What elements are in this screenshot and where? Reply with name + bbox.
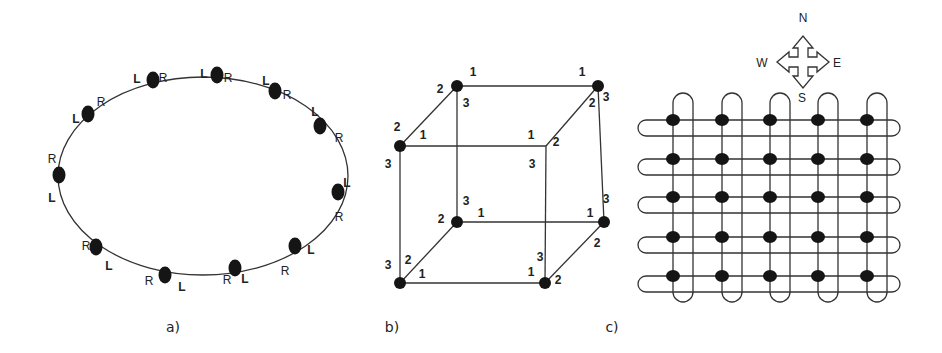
torus-node: [763, 114, 777, 126]
torus-node: [811, 231, 825, 243]
cube-vertex-back-bottom-left: [451, 216, 463, 228]
torus-node: [811, 191, 825, 203]
port-number-label: 1: [420, 128, 427, 142]
left-port-label: L: [48, 191, 55, 205]
left-port-label: L: [343, 176, 350, 190]
left-port-label: L: [133, 72, 140, 86]
ring-node: [90, 239, 103, 256]
ring-node: [269, 83, 282, 100]
right-port-label: R: [283, 88, 292, 102]
torus-node: [811, 153, 825, 165]
right-port-label: R: [281, 264, 290, 278]
compass-west-label: W: [756, 56, 768, 70]
network-topologies-figure: LRLRLRLRLRLRLRLRLRLRLR 12312321312331213…: [0, 0, 942, 353]
port-number-label: 1: [579, 65, 586, 79]
torus-node: [715, 114, 729, 126]
port-number-label: 1: [478, 206, 485, 220]
port-number-label: 2: [589, 96, 596, 110]
torus-node: [763, 270, 777, 282]
caption-a: a): [166, 319, 180, 335]
left-port-label: L: [241, 272, 248, 286]
port-number-label: 3: [463, 194, 470, 208]
port-number-label: 1: [470, 65, 477, 79]
ring-node: [82, 106, 95, 123]
port-number-label: 3: [385, 157, 392, 171]
torus-node: [811, 270, 825, 282]
cube-vertex-back-bottom-right: [598, 216, 610, 228]
torus-node: [715, 191, 729, 203]
compass-south-label: S: [798, 91, 806, 105]
torus-node: [666, 191, 680, 203]
port-number-label: 3: [385, 258, 392, 272]
cube-vertex-back-top-left: [451, 80, 463, 92]
right-port-label: R: [224, 71, 233, 85]
port-number-label: 2: [394, 120, 401, 134]
right-port-label: R: [159, 71, 168, 85]
port-number-label: 1: [587, 206, 594, 220]
right-port-label: R: [223, 273, 232, 287]
ring-node: [314, 118, 327, 135]
port-number-label: 3: [603, 192, 610, 206]
ring-node: [159, 267, 172, 284]
left-port-label: L: [262, 74, 269, 88]
cube-vertex-front-top-left: [394, 140, 406, 152]
port-number-label: 2: [553, 135, 560, 149]
torus-node: [666, 114, 680, 126]
right-port-label: R: [48, 152, 57, 166]
port-number-label: 2: [437, 82, 444, 96]
torus-node: [860, 114, 874, 126]
cube-edge: [545, 146, 546, 283]
port-number-label: 2: [594, 236, 601, 250]
ring-node: [147, 72, 160, 89]
port-number-label: 1: [419, 267, 426, 281]
caption-c: c): [605, 319, 618, 335]
left-port-label: L: [311, 105, 318, 119]
compass-east-label: E: [833, 56, 841, 70]
ring-node: [53, 167, 66, 184]
right-port-label: R: [335, 131, 344, 145]
torus-node: [666, 231, 680, 243]
cube-vertex-front-bottom-left: [394, 277, 406, 289]
torus-topology-panel: [638, 93, 900, 302]
port-number-label: 3: [603, 90, 610, 104]
port-number-label: 3: [529, 157, 536, 171]
compass-arrows-icon: [777, 36, 829, 88]
torus-node: [715, 153, 729, 165]
right-port-label: R: [145, 274, 154, 288]
torus-node: [860, 153, 874, 165]
hypercube-topology-panel: 123123213123312132321132: [385, 65, 610, 289]
torus-node: [763, 231, 777, 243]
left-port-label: L: [200, 67, 207, 81]
port-number-label: 2: [438, 212, 445, 226]
caption-b: b): [385, 319, 399, 335]
ring-topology-panel: LRLRLRLRLRLRLRLRLRLRLR: [48, 67, 351, 295]
left-port-label: L: [307, 243, 314, 257]
port-number-label: 2: [555, 273, 562, 287]
port-number-label: 2: [405, 253, 412, 267]
ring-node: [289, 238, 302, 255]
right-port-label: R: [335, 210, 344, 224]
torus-node: [860, 231, 874, 243]
compass-rose-icon: NSEW: [756, 11, 841, 105]
torus-node: [860, 270, 874, 282]
port-number-label: 1: [528, 128, 535, 142]
torus-node: [666, 270, 680, 282]
torus-node: [860, 191, 874, 203]
left-port-label: L: [105, 259, 112, 273]
cube-edge: [400, 86, 457, 146]
torus-node: [715, 231, 729, 243]
torus-node: [763, 191, 777, 203]
torus-node: [715, 270, 729, 282]
torus-node: [811, 114, 825, 126]
torus-node: [666, 153, 680, 165]
left-port-label: L: [178, 280, 185, 294]
torus-node: [763, 153, 777, 165]
left-port-label: L: [72, 112, 79, 126]
port-number-label: 1: [528, 265, 535, 279]
right-port-label: R: [97, 95, 106, 109]
cube-vertex-front-bottom-right: [539, 277, 551, 289]
compass-north-label: N: [799, 11, 808, 25]
right-port-label: R: [82, 239, 91, 253]
port-number-label: 3: [537, 250, 544, 264]
port-number-label: 3: [463, 96, 470, 110]
